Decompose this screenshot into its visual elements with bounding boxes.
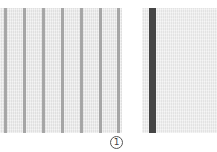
stripe xyxy=(61,8,64,133)
stripe xyxy=(149,8,156,133)
stripe xyxy=(42,8,45,133)
pinstripe-swatch xyxy=(0,8,122,133)
stripe xyxy=(117,8,120,133)
stripe xyxy=(99,8,102,133)
figure-number-label: 1 xyxy=(110,136,123,149)
single-stripe-swatch xyxy=(142,8,217,133)
stripe xyxy=(4,8,7,133)
stripe xyxy=(23,8,26,133)
stripe xyxy=(80,8,83,133)
